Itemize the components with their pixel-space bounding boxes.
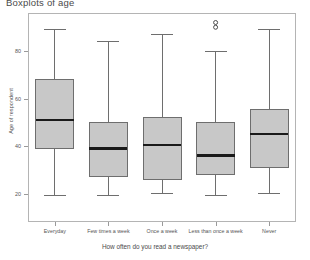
y-tick-label: 40 <box>7 143 21 149</box>
boxplot-figure: Boxplots of age Age of respondent 204060… <box>0 0 310 260</box>
boxplot-item <box>197 21 235 196</box>
y-tick-label: 80 <box>7 48 21 54</box>
boxplot-canvas <box>28 13 296 222</box>
x-tick-mark <box>269 222 270 226</box>
boxplot-item <box>250 30 288 194</box>
x-tick-mark <box>162 222 163 226</box>
x-tick-label: Once a week <box>133 228 191 234</box>
x-tick-label: Never <box>240 228 298 234</box>
x-tick-mark <box>216 222 217 226</box>
page-title: Boxplots of age <box>6 0 75 8</box>
y-tick-label: 60 <box>7 96 21 102</box>
boxplot-item <box>36 30 74 196</box>
x-tick-label: Few times a week <box>80 228 138 234</box>
x-axis-title: How often do you read a newspaper? <box>0 243 310 250</box>
outlier-point <box>214 21 218 25</box>
y-tick-label: 20 <box>7 191 21 197</box>
box-rect <box>36 80 74 149</box>
box-rect <box>197 122 235 174</box>
outlier-point <box>214 25 218 29</box>
boxplot-item <box>89 42 127 196</box>
x-tick-mark <box>55 222 56 226</box>
box-rect <box>143 118 181 180</box>
x-tick-label: Everyday <box>26 228 84 234</box>
y-axis-title: Age of respondent <box>8 76 14 146</box>
boxplot-series <box>36 21 288 196</box>
box-rect <box>250 109 288 167</box>
x-tick-label: Less than once a week <box>187 228 245 234</box>
x-tick-mark <box>108 222 109 226</box>
boxplot-item <box>143 34 181 193</box>
